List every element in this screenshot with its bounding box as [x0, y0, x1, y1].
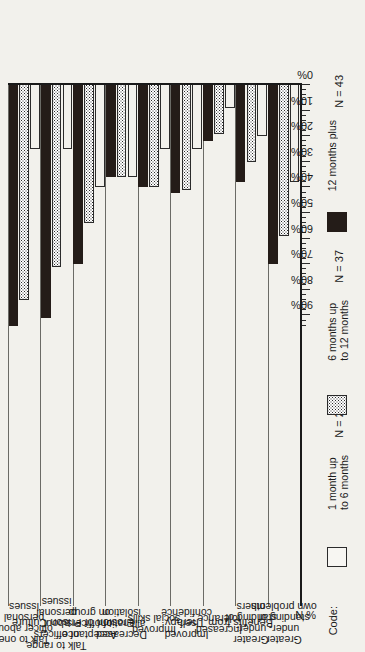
bar-b6 [84, 85, 94, 223]
axis-tick-major [302, 263, 310, 264]
axis-tick-label: 0% [297, 69, 313, 81]
axis-tick-major [302, 212, 310, 213]
bar-b12 [41, 85, 51, 318]
bar-b12 [138, 85, 148, 187]
bar-b6 [247, 85, 257, 162]
axis-tick-label: 30% [291, 146, 313, 158]
axis-tick-label: 40% [291, 171, 313, 183]
bar-b12 [203, 85, 213, 141]
axis-tick-label: 60% [291, 223, 313, 235]
category-separator [203, 85, 204, 606]
bar-b12 [9, 85, 19, 326]
legend-item-n: N = 37 [333, 250, 345, 283]
axis-tick-label: 90% [291, 299, 313, 311]
chart-legend: Code: 1 month up to 6 monthsN = 226 mont… [325, 0, 363, 641]
bar-b1 [128, 85, 138, 177]
bar-b1 [160, 85, 170, 149]
axis-tick-minor [302, 166, 306, 167]
bar-b1 [63, 85, 73, 149]
bar-b1 [30, 85, 40, 149]
axis-tick-label: 80% [291, 274, 313, 286]
axis-tick-minor [302, 217, 306, 218]
bar-b1 [225, 85, 235, 108]
bar-b6 [117, 85, 127, 177]
axis-tick-minor [302, 320, 306, 321]
axis-tick-minor [302, 294, 306, 295]
axis-tick-label: 10% [291, 95, 313, 107]
legend-swatch-solid-swatch [327, 212, 347, 232]
axis-tick-label: 50% [291, 197, 313, 209]
axis-tick-minor [302, 325, 306, 326]
bar-b6 [214, 85, 224, 134]
axis-tick-minor [302, 115, 306, 116]
bar-b12 [73, 85, 83, 264]
legend-item-label: 12 months plus [326, 120, 338, 191]
axis-tick-minor [302, 243, 306, 244]
axis-tick-major [302, 314, 310, 315]
bar-b1 [192, 85, 202, 149]
axis-tick-minor [302, 89, 306, 90]
legend-swatch-dotted-swatch [327, 395, 347, 415]
legend-code-label: Code: [327, 606, 339, 635]
group-title: Benefits from Therapy [165, 617, 273, 629]
value-axis-line [8, 83, 300, 85]
axis-tick-major [302, 186, 310, 187]
bar-b12 [106, 85, 116, 177]
axis-tick-label: 70% [291, 248, 313, 260]
axis-tick-minor [302, 140, 306, 141]
axis-tick-major [302, 161, 310, 162]
axis-tick-minor [302, 268, 306, 269]
bar-b6 [182, 85, 192, 190]
bar-b1 [257, 85, 267, 136]
legend-item-label: 6 months up to 12 months [326, 300, 350, 361]
axis-label-percent-n: % N [295, 609, 316, 621]
axis-tick-major [302, 289, 310, 290]
legend-item-label: 1 month up to 6 months [326, 455, 350, 510]
bar-b6 [149, 85, 159, 187]
axis-tick-major [302, 110, 310, 111]
bar-b6 [279, 85, 289, 236]
axis-tick-major [302, 84, 310, 85]
legend-swatch-open-swatch [327, 547, 347, 567]
axis-tick-major [302, 135, 310, 136]
bar-b6 [52, 85, 62, 267]
bar-b12 [236, 85, 246, 182]
axis-tick-label: 20% [291, 120, 313, 132]
bar-b6 [19, 85, 29, 300]
axis-tick-minor [302, 192, 306, 193]
group-title: Erosion of Prison Culture [12, 617, 134, 629]
axis-tick-major [302, 238, 310, 239]
bar-b12 [171, 85, 181, 193]
bar-b1 [95, 85, 105, 187]
legend-item-n: N = 43 [333, 75, 345, 108]
bar-b12 [268, 85, 278, 264]
